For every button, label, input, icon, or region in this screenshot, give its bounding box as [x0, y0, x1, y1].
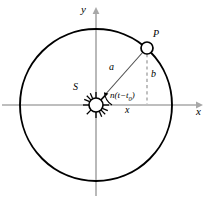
sun-label: S	[73, 82, 78, 92]
abscissa-label: x	[125, 105, 129, 115]
diagram-canvas	[0, 0, 208, 201]
y-axis-arrowhead-icon	[93, 7, 100, 14]
mean-anomaly-suffix: )	[132, 90, 135, 100]
radius-label: a	[109, 62, 114, 72]
mean-anomaly-label: n(t−t0)	[110, 91, 135, 102]
mean-anomaly-prefix: n(t−t	[110, 90, 129, 100]
planet-label: P	[153, 29, 159, 39]
sun-icon	[83, 92, 109, 118]
planet-marker	[141, 42, 153, 54]
y-axis-label: y	[81, 4, 86, 15]
x-axis-label: x	[196, 106, 201, 117]
sun-marker	[89, 98, 103, 112]
orbit-diagram: y x P S a b x n(t−t0)	[0, 0, 208, 201]
ordinate-label: b	[151, 69, 156, 79]
